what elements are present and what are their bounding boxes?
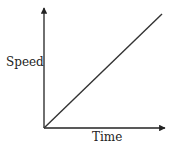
y-axis-label: Speed [6,55,44,69]
x-axis-label: Time [92,130,122,144]
speed-line [44,14,162,128]
speed-time-chart [0,0,172,150]
